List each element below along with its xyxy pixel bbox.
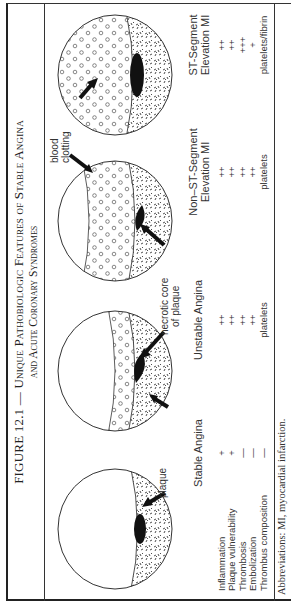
blood-clotting-label-line1: blood	[50, 131, 61, 163]
cell: platelets	[259, 137, 269, 207]
col-heading-line1: Non–ST-Segment	[188, 117, 200, 227]
col-heading-stable-angina: Stable Angina	[193, 403, 205, 503]
values-stable-angina: + + — — —	[217, 418, 269, 488]
col-heading-line1: Stable Angina	[193, 403, 205, 503]
blood-clotting-label-line2: clotting	[61, 131, 72, 163]
footnote: Abbreviations: MI, myocardial infarction…	[276, 419, 287, 595]
values-nstemi: ++ ++ ++ ++ platelets	[217, 137, 269, 207]
cell: platelets	[259, 285, 269, 355]
plaque-label: plaque	[158, 468, 169, 498]
values-unstable-angina: ++ ++ ++ ++ platelets	[217, 285, 269, 355]
values-stemi: ++ ++ +++ + platelets/fibrin	[217, 5, 269, 85]
figure-canvas: FIGURE 12.1 — Unique Pathobiologic Featu…	[0, 0, 291, 615]
row-label-thrombus-composition: Thrombus composition	[259, 495, 269, 591]
col-heading-stemi: ST-Segment Elevation MI	[188, 0, 211, 95]
stemi-artery-icon	[58, 11, 180, 139]
row-labels: Inflammation Plaque vulnerability Thromb…	[217, 495, 269, 591]
col-heading-line1: Unstable Angina	[193, 265, 205, 375]
col-heading-nstemi: Non–ST-Segment Elevation MI	[188, 117, 211, 227]
cell: platelets/fibrin	[259, 5, 269, 85]
col-heading-unstable-angina: Unstable Angina	[193, 265, 205, 375]
col-heading-line2: Elevation MI	[200, 117, 212, 227]
necrotic-core-label: necrotic core of plaque	[160, 278, 181, 335]
blood-clotting-label: blood clotting	[50, 131, 71, 163]
col-heading-line2: Elevation MI	[200, 0, 212, 95]
necrotic-core-label-line2: of plaque	[171, 278, 182, 335]
nstemi-artery-icon	[58, 155, 180, 285]
footer-divider	[274, 3, 275, 601]
necrotic-core-label-line1: necrotic core	[160, 278, 171, 335]
cell: —	[259, 418, 269, 488]
col-heading-line1: ST-Segment	[188, 0, 200, 95]
